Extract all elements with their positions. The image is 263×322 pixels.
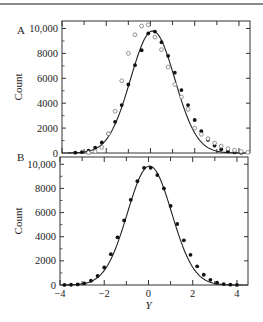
panel-label: B [17,151,24,163]
data-point-open [160,48,164,52]
data-point-open [140,24,144,28]
data-point-filled [175,222,179,226]
y-tick-label: 4000 [35,231,56,242]
fitted-curve [66,31,245,153]
data-point-filled [113,120,117,124]
data-point-filled [126,83,130,87]
data-point-open [93,150,97,154]
data-point-open [113,109,117,113]
data-point-filled [140,48,144,52]
data-point-open [133,33,137,37]
data-point-filled [69,283,73,287]
x-tick-label: −4 [54,288,66,299]
data-point-open [120,79,124,83]
data-point-filled [93,146,97,150]
data-point-open [186,108,190,112]
data-point-filled [89,279,93,283]
plot-frame [60,157,248,285]
data-point-open [246,150,250,154]
data-point-filled [160,40,164,44]
data-point-open [213,141,217,145]
data-point-filled [142,166,146,170]
data-point-filled [195,264,199,268]
data-point-filled [193,118,197,122]
data-point-open [100,145,104,149]
y-axis-title: Count [12,74,24,101]
data-point-open [239,150,243,154]
data-point-filled [173,71,177,75]
data-point-filled [202,273,206,277]
data-point-filled [80,150,84,154]
data-point-filled [122,218,126,222]
panel-b: B0200040006000800010,000−4−2024YCount [12,151,248,311]
data-point-open [180,95,184,99]
data-point-open [193,126,197,130]
data-point-filled [82,281,86,285]
x-tick-label: 4 [234,288,240,299]
data-point-filled [222,282,226,286]
y-tick-label: 8000 [35,183,56,194]
data-point-filled [76,282,80,286]
data-point-filled [153,30,157,34]
y-tick-label: 4000 [37,98,58,109]
x-axis-title: Y [145,299,153,311]
data-point-filled [166,54,170,58]
data-point-filled [235,283,239,287]
data-point-filled [120,103,124,107]
x-tick-label: −2 [99,288,110,299]
y-tick-label: 2000 [37,123,58,134]
data-point-open [199,132,203,136]
data-point-filled [109,252,113,256]
y-axis-title: Count [12,208,24,235]
data-point-filled [228,283,232,287]
data-point-filled [73,151,77,155]
data-point-filled [209,278,213,282]
data-point-filled [102,266,106,270]
data-point-open [173,83,177,87]
data-point-open [226,147,230,151]
x-tick-label: 2 [190,288,195,299]
data-point-filled [189,253,193,257]
data-point-open [219,144,223,148]
data-point-filled [215,281,219,285]
data-point-filled [186,103,190,107]
data-point-open [107,132,111,136]
x-tick-label: 0 [146,288,151,299]
data-point-open [87,151,91,155]
data-point-open [146,23,150,27]
data-point-filled [146,32,150,36]
panel-label: A [17,24,25,36]
data-point-filled [63,283,67,287]
y-tick-label: 10,000 [29,23,58,34]
data-point-filled [180,88,184,92]
data-point-open [126,51,130,55]
y-tick-label: 6000 [35,207,56,218]
data-point-filled [162,186,166,190]
data-point-filled [182,238,186,242]
data-point-filled [116,235,120,239]
data-point-filled [100,141,104,145]
y-tick-label: 10,000 [27,159,56,170]
plot-frame [62,21,250,153]
panel-a: A0200040006000800010,000Count [12,21,250,159]
data-point-open [166,65,170,69]
data-point-filled [129,198,133,202]
figure: A0200040006000800010,000Count B020004000… [0,0,263,322]
data-point-open [206,137,210,141]
y-tick-label: 8000 [37,48,58,59]
data-point-filled [155,173,159,177]
y-tick-label: 0 [53,148,58,159]
data-point-open [153,35,157,39]
data-point-filled [149,166,153,170]
data-point-filled [96,274,100,278]
data-point-filled [136,179,140,183]
y-tick-label: 2000 [35,255,56,266]
fitted-curve [64,166,243,285]
data-point-filled [169,204,173,208]
data-point-open [233,148,237,152]
y-tick-label: 6000 [37,73,58,84]
data-point-filled [133,63,137,67]
